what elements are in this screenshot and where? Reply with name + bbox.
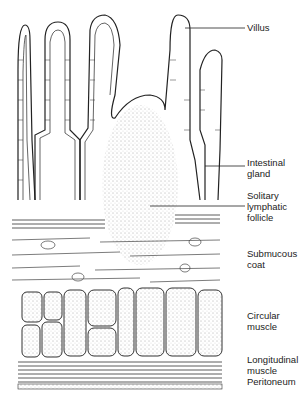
circular-muscle	[22, 288, 222, 357]
label-intestinal-gland: Intestinal gland	[247, 157, 285, 179]
label-solitary-lymphatic-follicle: Solitary lymphatic follicle	[247, 190, 287, 223]
label-submucous-coat: Submucous coat	[247, 248, 297, 270]
longitudinal-muscle	[18, 362, 222, 382]
label-villus: Villus	[247, 22, 270, 33]
label-circular-muscle: Circular muscle	[247, 310, 280, 332]
label-peritoneum: Peritoneum	[247, 376, 296, 387]
peritoneum	[18, 384, 222, 389]
label-longitudinal-muscle: Longitudinal muscle	[247, 354, 298, 376]
